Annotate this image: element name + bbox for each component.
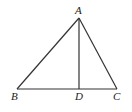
label-d: D xyxy=(74,90,83,102)
label-b: B xyxy=(11,90,18,102)
segment-ab xyxy=(17,18,79,89)
label-c: C xyxy=(113,90,121,102)
triangle-diagram: A B D C xyxy=(0,0,132,112)
label-a: A xyxy=(74,4,82,16)
segment-ac xyxy=(79,18,117,89)
